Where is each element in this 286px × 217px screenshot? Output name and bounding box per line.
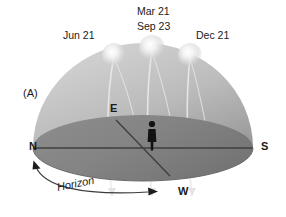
observer-head (149, 121, 155, 127)
sun-label-dec-21: Dec 21 (196, 30, 229, 41)
sun-jun-21-icon (102, 43, 126, 67)
arrowhead-dec-21 (188, 188, 196, 196)
sun-label-jun-21: Jun 21 (63, 30, 95, 41)
horizon-arrowhead-left (33, 161, 41, 170)
cardinal-label-west: W (178, 186, 188, 197)
sun-label-sep-23: Sep 23 (137, 21, 170, 32)
horizon-ground-disk (33, 115, 253, 181)
cardinal-label-south: S (261, 141, 268, 152)
arrowhead-jun-21 (108, 188, 116, 196)
cardinal-label-east: E (110, 103, 117, 114)
celestial-dome-figure: Jun 21 Mar 21 Sep 23 Dec 21 (A) N S E W … (0, 0, 286, 217)
sun-dec-21-icon (178, 43, 202, 67)
panel-label: (A) (23, 88, 38, 99)
sun-equinox-icon (139, 35, 165, 61)
sun-label-mar-21: Mar 21 (137, 6, 170, 17)
cardinal-label-north: N (29, 141, 37, 152)
dome-diagram-svg (0, 0, 286, 217)
